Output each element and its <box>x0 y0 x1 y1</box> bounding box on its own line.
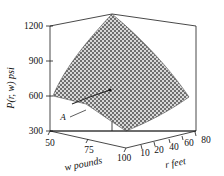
z-tick-label: 900 <box>29 56 44 66</box>
surface-patch <box>53 14 189 131</box>
w-tick-label: 50 <box>45 138 55 148</box>
w-tick-label: 100 <box>117 153 132 163</box>
z-tick-label: 600 <box>29 91 44 101</box>
z-axis-ticks: 1200 900 600 300 <box>24 21 53 136</box>
r-tick-label: 20 <box>154 145 164 155</box>
surface-mesh <box>53 14 189 131</box>
z-axis-label: P(r, w) psi <box>5 67 17 110</box>
r-tick-label: 10 <box>140 148 150 158</box>
r-axis-label: r feet <box>164 155 187 170</box>
r-tick-label: 60 <box>184 138 194 148</box>
z-tick-label: 1200 <box>24 21 43 31</box>
surface-plot-figure: 1200 900 600 300 P(r, w) psi 50 75 100 w… <box>0 0 224 176</box>
plot-canvas: 1200 900 600 300 P(r, w) psi 50 75 100 w… <box>0 0 224 176</box>
w-axis-label: w pounds <box>64 155 104 173</box>
r-tick-label: 80 <box>201 135 211 145</box>
r-tick-label: 40 <box>169 142 179 152</box>
w-tick-label: 75 <box>84 145 94 155</box>
point-a-annotation: A <box>59 110 86 122</box>
z-tick-label: 300 <box>29 126 44 136</box>
point-a-label: A <box>59 112 66 122</box>
marked-point <box>108 88 111 91</box>
